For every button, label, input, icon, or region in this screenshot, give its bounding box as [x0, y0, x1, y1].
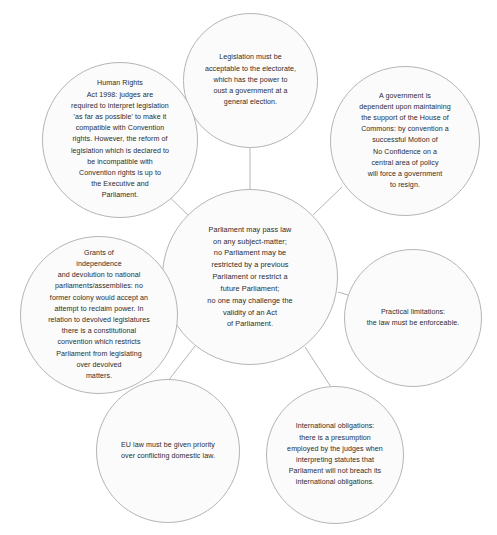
node-eu-law-priority-text: EU law must be given priority over confl…: [103, 440, 233, 462]
node-legislation-electorate-text: Legislation must be acceptable to the el…: [190, 52, 311, 108]
node-international-obligations: International obligations: there is a pr…: [266, 386, 404, 524]
connector-center-to-right: [338, 292, 348, 295]
sovereignty-of-parliament-diagram: Parliament may pass law on any subject-m…: [0, 0, 497, 535]
node-international-obligations-text: International obligations: there is a pr…: [273, 421, 397, 488]
node-parliament-sovereignty: Parliament may pass law on any subject-m…: [162, 189, 338, 365]
node-government-confidence: A government is dependent upon maintaini…: [330, 66, 480, 216]
node-government-confidence-text: A government is dependent upon maintaini…: [337, 91, 473, 192]
node-human-rights-act-text: Human Rights Act 1998: judges are requir…: [49, 78, 191, 201]
node-legislation-electorate: Legislation must be acceptable to the el…: [183, 13, 318, 148]
node-human-rights-act: Human Rights Act 1998: judges are requir…: [42, 62, 198, 218]
connector-center-to-bottom-left: [168, 346, 195, 381]
node-practical-limitations: Practical limitations: the law must be e…: [344, 249, 482, 387]
node-eu-law-priority: EU law must be given priority over confl…: [96, 379, 240, 523]
node-parliament-sovereignty-text: Parliament may pass law on any subject-m…: [169, 224, 331, 330]
connector-center-to-bottom-right: [305, 347, 331, 387]
node-grants-of-independence-text: Grants of independence and devolution to…: [27, 248, 171, 382]
node-grants-of-independence: Grants of independence and devolution to…: [20, 236, 178, 394]
node-practical-limitations-text: Practical limitations: the law must be e…: [351, 307, 475, 329]
